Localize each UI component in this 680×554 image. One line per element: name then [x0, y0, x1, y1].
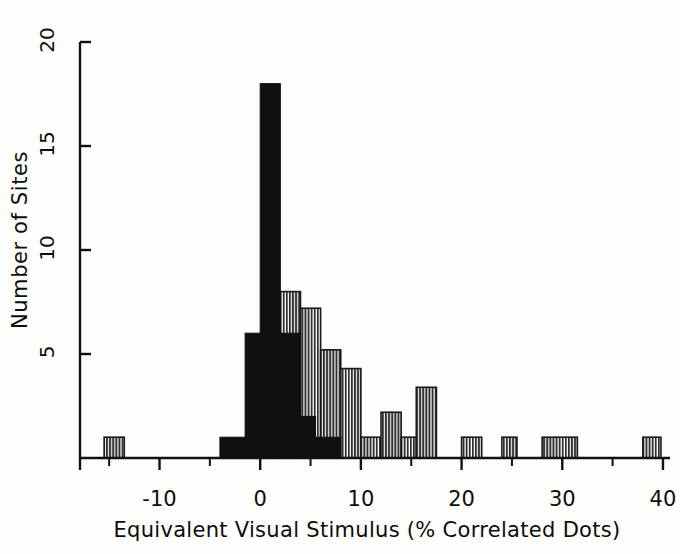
y-axis-tick-label-text: 5 — [35, 346, 59, 359]
y-axis-tick-label: 5 — [30, 340, 64, 364]
y-axis-tick-label: 20 — [30, 28, 64, 52]
y-axis-tick-label-text: 15 — [35, 131, 59, 156]
histogram-bar — [643, 437, 661, 458]
bar-series-hatched — [104, 292, 661, 458]
histogram-bar — [280, 333, 300, 458]
histogram-bar — [416, 387, 436, 458]
y-axis-tick-labels: 5101520 — [18, 40, 64, 478]
histogram-bar — [316, 437, 341, 458]
histogram-bar — [300, 416, 315, 458]
x-axis-tick-label: -10 — [130, 487, 190, 511]
histogram-bar — [260, 84, 280, 458]
histogram-bar — [502, 437, 517, 458]
x-axis-tick-label: 0 — [230, 487, 290, 511]
plot-area — [72, 40, 672, 478]
x-axis-tick-label: 30 — [532, 487, 592, 511]
y-axis-tick-label: 15 — [30, 132, 64, 156]
x-axis-tick-label: 10 — [331, 487, 391, 511]
histogram-bar — [245, 333, 260, 458]
histogram-bar — [361, 437, 381, 458]
x-axis-tick-label: 40 — [633, 487, 680, 511]
histogram-bar — [104, 437, 124, 458]
y-axis-tick-label: 10 — [30, 236, 64, 260]
histogram-bar — [220, 437, 245, 458]
histogram-bar — [462, 437, 482, 458]
histogram-bar — [341, 369, 361, 458]
y-axis-tick-label-text: 20 — [35, 27, 59, 52]
histogram-bar — [381, 412, 401, 458]
y-axis-tick-label-text: 10 — [35, 235, 59, 260]
x-axis-tick-labels: -10010203040 — [72, 487, 672, 517]
x-axis-tick-label: 20 — [432, 487, 492, 511]
histogram-bar — [542, 437, 577, 458]
axis-spines — [80, 42, 670, 470]
histogram-bar — [401, 437, 416, 458]
x-axis-label: Equivalent Visual Stimulus (% Correlated… — [60, 518, 674, 542]
